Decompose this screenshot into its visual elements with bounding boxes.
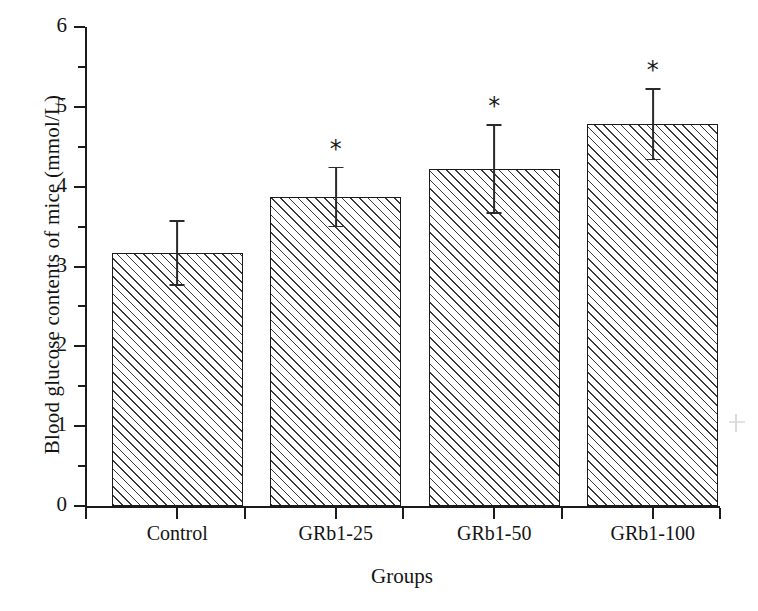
error-bar-cap-lower	[487, 212, 502, 214]
plot-area: 0123456 *** ControlGRb1-25GRb1-50GRb1-10…	[85, 27, 719, 507]
error-bar-stem	[493, 125, 495, 213]
x-boundary-tick	[85, 508, 87, 519]
x-center-tick	[335, 508, 337, 519]
y-tick-0: 0	[74, 505, 85, 507]
y-tick-4: 4	[74, 186, 85, 188]
error-bar-cap-lower	[170, 284, 185, 286]
error-bar-cap-lower	[645, 159, 660, 161]
scan-artifact	[729, 414, 745, 432]
x-boundary-tick	[719, 508, 721, 519]
bar	[429, 169, 560, 506]
x-center-tick	[176, 508, 178, 519]
y-tick-3: 3	[74, 266, 85, 268]
x-center-tick	[493, 508, 495, 519]
bar	[587, 124, 718, 506]
y-minor-tick	[78, 146, 85, 148]
error-bar-cap-upper	[328, 167, 343, 169]
error-bar-stem	[176, 221, 178, 285]
x-tick-label: GRb1-25	[299, 523, 373, 543]
y-tick-label: 6	[57, 15, 68, 36]
y-tick-label: 5	[57, 95, 68, 116]
bar	[112, 253, 243, 506]
x-axis-title: Groups	[85, 564, 719, 589]
significance-asterisk: *	[330, 137, 342, 161]
y-tick-label: 1	[57, 414, 68, 435]
x-boundary-tick	[561, 508, 563, 519]
x-boundary-tick	[244, 508, 246, 519]
x-tick-label: Control	[147, 523, 208, 543]
y-minor-tick	[78, 385, 85, 387]
y-tick-6: 6	[74, 26, 85, 28]
bar	[270, 197, 401, 506]
y-tick-label: 0	[57, 494, 68, 515]
error-bar-stem	[335, 168, 337, 227]
error-bar-cap-upper	[487, 124, 502, 126]
error-bar-cap-lower	[328, 226, 343, 228]
figure-canvas: Blood glucose contents of mice (mmol/L) …	[0, 0, 758, 611]
error-bar-cap-upper	[170, 220, 185, 222]
y-tick-2: 2	[74, 345, 85, 347]
y-tick-label: 3	[57, 255, 68, 276]
y-tick-1: 1	[74, 425, 85, 427]
x-tick-label: GRb1-50	[457, 523, 531, 543]
significance-asterisk: *	[647, 58, 659, 82]
error-bar-stem	[652, 89, 654, 159]
y-tick-label: 4	[57, 175, 68, 196]
y-tick-5: 5	[74, 106, 85, 108]
x-boundary-tick	[402, 508, 404, 519]
y-axis-line	[85, 27, 87, 508]
y-minor-tick	[78, 305, 85, 307]
y-minor-tick	[78, 66, 85, 68]
x-center-tick	[652, 508, 654, 519]
y-minor-tick	[78, 465, 85, 467]
y-minor-tick	[78, 226, 85, 228]
x-tick-label: GRb1-100	[611, 523, 695, 543]
y-tick-label: 2	[57, 334, 68, 355]
error-bar-cap-upper	[645, 88, 660, 90]
significance-asterisk: *	[488, 94, 500, 118]
